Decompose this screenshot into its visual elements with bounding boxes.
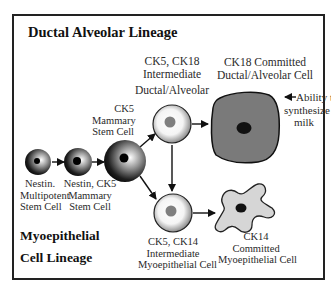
nucleus-icon: [120, 154, 129, 163]
label-line: Ductal/Alveolar: [132, 84, 212, 97]
ck14-committed-myoepithelial-cell: [215, 184, 274, 232]
ck18-committed-ductal-cell: [211, 92, 279, 163]
label-line: Mammary: [62, 190, 118, 202]
nucleus-icon: [166, 206, 177, 217]
nestin-ck5-mammary-stem-cell: [64, 148, 92, 176]
label-line: Stem Cell: [62, 201, 118, 213]
label-line: Stem Cell: [20, 201, 60, 213]
label-line: Stem Cell: [92, 126, 134, 138]
ck5-mammary-stem-cell: [104, 140, 146, 182]
myoepithelial-lineage-title-line1: Myoepithelial: [20, 228, 100, 244]
label-line: Myoepithelial Cell: [218, 254, 294, 266]
label-line: Myoepithelial Cell: [138, 259, 208, 271]
label-line: Mammary: [92, 115, 134, 127]
ck5-ck14-intermediate-cell: [154, 194, 192, 232]
label-line: Multipotent: [20, 190, 60, 202]
ck18-committed-label: CK18 Committed Ductal/Alveolar Cell: [212, 56, 318, 82]
ck5-ck18-intermediate-label: CK5, CK18 Intermediate Ductal/Alveolar: [132, 55, 212, 97]
label-line: milk: [284, 116, 324, 129]
nucleus-icon: [236, 204, 247, 213]
label-line: CK14: [218, 231, 294, 243]
ck5-mammary-label: CK5 Mammary Stem Cell: [92, 103, 134, 138]
arrow-ck5-to-ck14-intermediate: [140, 176, 156, 199]
ck5-ck18-intermediate-cell: [153, 105, 191, 143]
label-line: Nestin, CK5: [62, 178, 118, 190]
label-line: Intermediate: [138, 248, 208, 260]
label-line: CK18 Committed: [212, 56, 318, 69]
label-line: Ductal/Alveolar Cell: [212, 69, 318, 82]
nucleus-icon: [73, 157, 81, 165]
milk-synthesis-annotation: Ability to synthesize milk: [284, 91, 324, 129]
label-line: Nestin.: [20, 178, 60, 190]
ck14-committed-label: CK14 Committed Myoepithelial Cell: [218, 231, 294, 266]
label-line: CK5, CK18: [132, 55, 212, 68]
nucleus-icon: [237, 122, 252, 134]
myoepithelial-lineage-title-line2: Cell Lineage: [20, 250, 92, 266]
nucleus-icon: [34, 158, 40, 164]
label-line: CK5: [92, 103, 134, 115]
label-line: CK5, CK14: [138, 236, 208, 248]
label-line: Ability to: [284, 91, 324, 104]
nestin-ck5-label: Nestin, CK5 Mammary Stem Cell: [62, 178, 118, 213]
arrow-ck5-to-ck18-intermediate: [140, 134, 155, 147]
nucleus-icon: [165, 117, 176, 128]
ck5-ck14-intermediate-label: CK5, CK14 Intermediate Myoepithelial Cel…: [138, 236, 208, 271]
label-line: synthesize: [284, 104, 324, 117]
nestin-multipotent-label: Nestin. Multipotent Stem Cell: [20, 178, 60, 213]
ductal-lineage-title: Ductal Alveolar Lineage: [28, 24, 178, 41]
label-line: Intermediate: [132, 68, 212, 81]
label-line: Committed: [218, 243, 294, 255]
nestin-multipotent-stem-cell: [25, 149, 51, 175]
